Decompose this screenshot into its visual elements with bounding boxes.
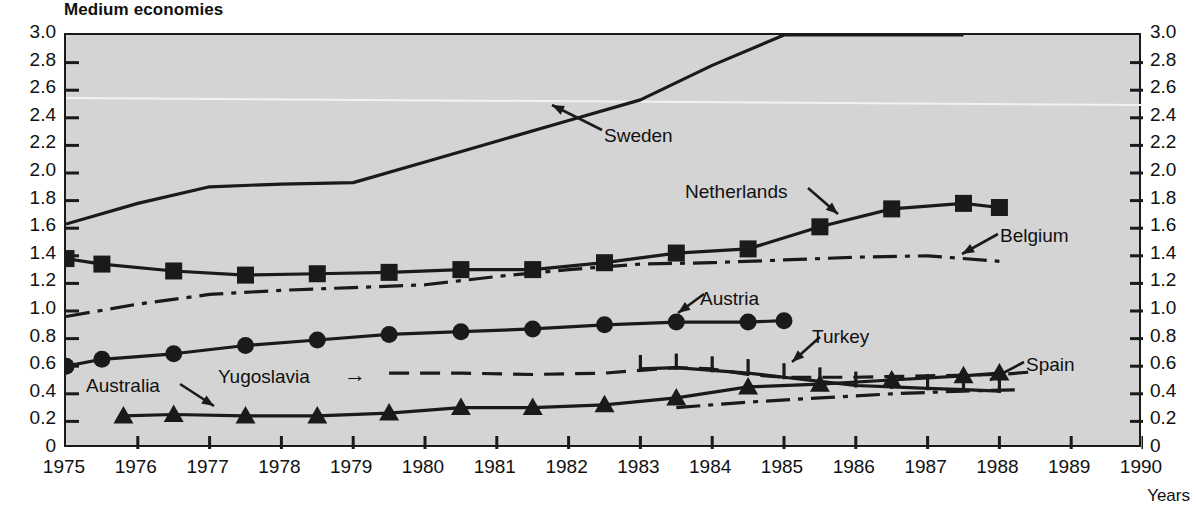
series-spain [676,390,1021,408]
annotation-sweden: Sweden [604,125,673,147]
y-tick-label-right: 2.8 [1150,50,1196,70]
series-sweden [66,35,964,224]
annotation-belgium: Belgium [1000,225,1069,247]
annotation-spain: Spain [1026,354,1075,376]
x-tick-label: 1978 [239,455,319,479]
y-tick-label: 1.2 [0,270,56,290]
x-tick-label: 1990 [1101,455,1181,479]
arrow-belgium [962,234,998,254]
x-tick-label: 1982 [527,455,607,479]
annotation-yugoslavia: Yugoslavia [218,366,310,388]
y-tick-label-right: 0.2 [1150,408,1196,428]
page-title: Medium economies [64,0,223,20]
y-tick-label: 2.0 [0,160,56,180]
x-tick-label: 1988 [957,455,1037,479]
y-tick-label-right: 0.6 [1150,353,1196,373]
y-tick-label-right: 1.8 [1150,188,1196,208]
y-tick-label: 1.8 [0,188,56,208]
series-netherlands [66,195,1008,284]
x-tick-label: 1989 [1029,455,1109,479]
x-tick-label: 1975 [24,455,104,479]
annotation-turkey: Turkey [812,326,869,348]
annotation-netherlands: Netherlands [685,181,787,203]
y-tick-label: 1.4 [0,243,56,263]
y-tick-label: 0 [0,436,56,456]
y-tick-label: 1.0 [0,298,56,318]
y-tick-label-right: 2.6 [1150,77,1196,97]
annotation-australia: Australia [86,375,160,397]
y-tick-label-right: 1.4 [1150,243,1196,263]
arrow-australia [180,384,214,406]
y-tick-label: 1.6 [0,215,56,235]
x-tick-label: 1986 [814,455,894,479]
y-tick-label: 0.8 [0,326,56,346]
y-tick-label-right: 2.2 [1150,132,1196,152]
y-tick-label-right: 0.8 [1150,326,1196,346]
x-tick-label: 1983 [598,455,678,479]
x-axis-title: Years [1147,486,1190,506]
y-tick-label-right: 1.2 [1150,270,1196,290]
annotation-austria: Austria [700,288,759,310]
arrow-sweden [552,105,602,130]
y-tick-label: 0.6 [0,353,56,373]
y-tick-label-right: 1.0 [1150,298,1196,318]
y-tick-label: 2.4 [0,105,56,125]
series-austria [66,312,793,375]
arrow-netherlands [808,188,838,214]
y-tick-label-right: 3.0 [1150,22,1196,42]
y-tick-label-right: 0.4 [1150,381,1196,401]
x-tick-label: 1976 [96,455,176,479]
x-tick-label: 1980 [383,455,463,479]
y-tick-label-right: 2.4 [1150,105,1196,125]
x-tick-label: 1985 [742,455,822,479]
chart-page: Medium economies 3.02.82.62.42.22.01.81.… [0,0,1196,517]
annotation-yugoslavia-arrow-icon: → [344,364,366,386]
x-tick-label: 1987 [886,455,966,479]
y-tick-label: 0.2 [0,408,56,428]
y-tick-label-right: 1.6 [1150,215,1196,235]
x-tick-label: 1979 [311,455,391,479]
y-tick-label: 2.8 [0,50,56,70]
x-tick-label: 1981 [455,455,535,479]
x-tick-label: 1984 [670,455,750,479]
y-tick-label: 0.4 [0,381,56,401]
y-tick-label: 3.0 [0,22,56,42]
x-tick-label: 1977 [168,455,248,479]
y-tick-label-right: 2.0 [1150,160,1196,180]
y-tick-label: 2.2 [0,132,56,152]
y-tick-label: 2.6 [0,77,56,97]
y-tick-label-right: 0 [1150,436,1196,456]
